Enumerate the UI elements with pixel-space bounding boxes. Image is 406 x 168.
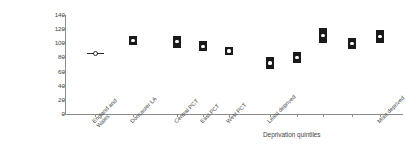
y-axis-title-line-2: resident population <box>26 0 32 14</box>
x-axis-title: Deprivation quintiles <box>263 131 321 138</box>
data-point-8 <box>319 28 328 42</box>
data-point-center <box>131 39 134 42</box>
data-point-1 <box>93 51 98 56</box>
data-point-5 <box>225 47 234 55</box>
data-point-7 <box>293 52 302 63</box>
data-point-center <box>201 45 204 48</box>
data-point-6 <box>266 57 275 68</box>
data-point-center <box>175 40 178 43</box>
data-point-center <box>378 35 381 38</box>
data-point-center <box>295 56 298 59</box>
data-point-3 <box>173 36 182 49</box>
error-bar-right <box>97 53 104 54</box>
data-point-center <box>350 42 353 45</box>
x-axis-tick-mark <box>352 114 353 117</box>
error-bar-left <box>87 53 94 54</box>
y-axis-title: Rate per 100000 resident population <box>20 0 46 14</box>
data-point-10 <box>376 30 385 43</box>
rate-by-deprivation-chart: Rate per 100000 resident population 0204… <box>0 0 406 168</box>
data-point-center <box>268 61 271 64</box>
data-point-4 <box>199 41 208 51</box>
x-axis-tick-mark <box>323 114 324 117</box>
data-point-center <box>227 49 230 52</box>
x-axis-tick-mark <box>297 114 298 117</box>
data-point-center <box>321 34 324 37</box>
data-point-2 <box>129 36 138 44</box>
data-point-9 <box>348 38 357 49</box>
